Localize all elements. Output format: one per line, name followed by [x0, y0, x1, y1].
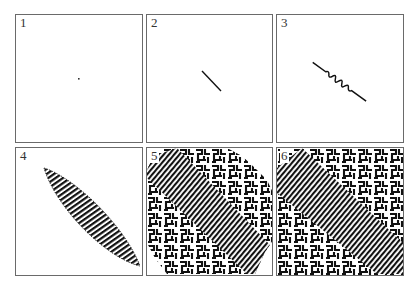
panel-2: 2: [146, 14, 273, 143]
lens-stripe-domain: [16, 148, 142, 275]
diagonal-line: [147, 15, 272, 142]
panel-label: 2: [150, 16, 159, 30]
panel-label: 4: [19, 149, 28, 163]
panel-5: 5: [146, 147, 273, 276]
panel-6: 6: [276, 147, 404, 276]
labyrinth-partial: [147, 148, 272, 275]
panel-label: 6: [280, 149, 289, 163]
panel-3: 3: [276, 14, 404, 143]
panel-label: 3: [280, 16, 289, 30]
panel-1: 1: [15, 14, 143, 143]
panel-label: 1: [19, 16, 28, 30]
seed-dot: [16, 15, 142, 142]
labyrinth-full: [277, 148, 403, 275]
panel-label: 5: [150, 149, 159, 163]
undulating-line: [277, 15, 403, 142]
panel-4: 4: [15, 147, 143, 276]
